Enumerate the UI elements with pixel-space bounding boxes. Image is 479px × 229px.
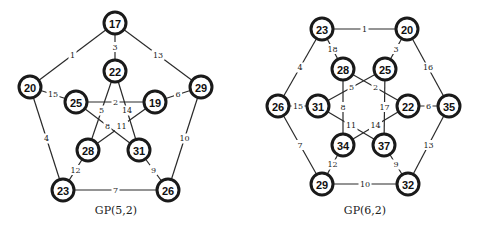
graph-node: 20: [19, 76, 41, 98]
edge-label: 10: [360, 180, 370, 189]
node-label: 28: [337, 64, 349, 76]
edge-label: 9: [393, 160, 398, 169]
edge-label: 7: [297, 141, 302, 150]
edge-label: 9: [151, 166, 156, 175]
edge-label: 4: [297, 63, 302, 72]
node-label: 23: [57, 185, 69, 197]
graph-node: 34: [332, 134, 354, 156]
node-label: 20: [24, 82, 36, 94]
edge-label: 13: [153, 51, 163, 60]
edge-label: 1: [70, 51, 75, 60]
edge-label: 17: [379, 103, 389, 112]
edge-label: 14: [370, 121, 380, 130]
edge-label: 14: [122, 106, 132, 115]
edge-label: 16: [423, 63, 433, 72]
graph-node: 37: [373, 134, 395, 156]
graph-node: 29: [311, 173, 333, 195]
graph-node: 35: [438, 95, 460, 117]
edge-label: 15: [293, 102, 303, 111]
graph-gp-6-2: 1183416251568171114713129102320282526312…: [267, 18, 460, 217]
edge-label: 2: [373, 83, 378, 92]
edge-label: 15: [48, 90, 58, 99]
graph-node: 28: [77, 139, 99, 161]
edge-label: 18: [327, 45, 337, 54]
edge-label: 11: [346, 121, 356, 130]
graph-caption: GP(5,2): [95, 204, 137, 217]
edge-label: 8: [105, 122, 110, 131]
graph-node: 29: [190, 76, 212, 98]
node-label: 22: [109, 66, 121, 78]
node-label: 25: [70, 97, 82, 109]
edge-label: 6: [426, 102, 431, 111]
node-label: 26: [162, 185, 174, 197]
node-label: 23: [316, 24, 328, 36]
node-label: 29: [316, 179, 328, 191]
graph-node: 25: [374, 58, 396, 80]
edge-label: 3: [393, 45, 398, 54]
node-label: 34: [337, 140, 350, 152]
graph-diagram-canvas: 1313152651481141012971720222519292831232…: [0, 0, 479, 229]
edge-label: 8: [340, 103, 345, 112]
node-label: 19: [149, 97, 161, 109]
node-label: 25: [379, 64, 391, 76]
node-label: 29: [195, 82, 207, 94]
graph-node: 22: [104, 60, 126, 82]
edge-label: 2: [113, 98, 118, 107]
edge-label: 3: [112, 43, 117, 52]
node-label: 22: [402, 101, 414, 113]
graph-node: 23: [52, 179, 74, 201]
node-label: 20: [401, 24, 413, 36]
edge-label: 6: [175, 90, 180, 99]
graph-node: 31: [128, 139, 150, 161]
edge-label: 4: [44, 134, 49, 143]
graph-node: 31: [307, 95, 329, 117]
edge-label: 1: [362, 25, 367, 34]
node-label: 35: [443, 101, 455, 113]
graph-node: 19: [144, 91, 166, 113]
edge-label: 10: [179, 134, 189, 143]
graph-node: 17: [104, 12, 126, 34]
graph-node: 26: [267, 95, 289, 117]
node-label: 31: [133, 145, 145, 157]
graph-caption: GP(6,2): [344, 204, 386, 217]
graph-gp-5-2: 1313152651481141012971720222519292831232…: [19, 12, 212, 217]
graph-node: 26: [157, 179, 179, 201]
edge-label: 12: [327, 160, 337, 169]
node-label: 28: [82, 145, 94, 157]
graph-node: 32: [397, 173, 419, 195]
graph-node: 25: [65, 91, 87, 113]
graph-node: 28: [332, 58, 354, 80]
node-label: 31: [312, 101, 324, 113]
node-label: 26: [272, 101, 284, 113]
node-label: 37: [378, 140, 390, 152]
graph-node: 23: [311, 18, 333, 40]
edge-label: 11: [116, 122, 126, 131]
graph-node: 20: [396, 18, 418, 40]
edge-label: 5: [349, 83, 354, 92]
edge-label: 13: [423, 141, 433, 150]
node-label: 32: [402, 179, 414, 191]
node-label: 17: [109, 18, 121, 30]
edge-label: 5: [99, 106, 104, 115]
edge-label: 12: [70, 166, 80, 175]
edge-label: 7: [113, 186, 118, 195]
graph-node: 22: [397, 95, 419, 117]
